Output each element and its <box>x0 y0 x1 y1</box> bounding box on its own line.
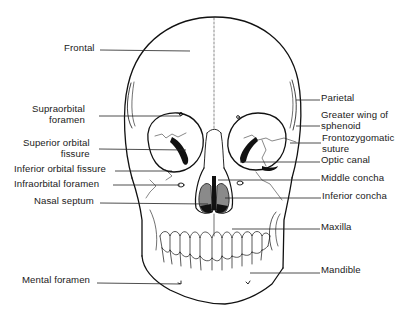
label-greater-wing-sphenoid: Greater wing ofsphenoid <box>321 110 388 131</box>
label-text: Greater wing of <box>321 110 388 121</box>
label-text: Middle concha <box>321 173 384 184</box>
label-nasal-septum: Nasal septum <box>34 196 94 207</box>
label-mandible: Mandible <box>321 265 361 276</box>
label-text: Supraorbital <box>32 104 85 115</box>
label-text: Inferior orbital fissure <box>14 164 106 175</box>
label-text: Infraorbital foramen <box>14 179 99 190</box>
label-inferior-orbital-fissure: Inferior orbital fissure <box>14 164 106 175</box>
label-frontozygomatic-suture: Frontozygomaticsuture <box>322 133 394 154</box>
label-text: Superior orbital <box>23 138 90 149</box>
label-text: Frontozygomatic <box>322 133 394 144</box>
leader-nasal-septum <box>100 203 208 204</box>
label-text: fissure <box>23 149 90 160</box>
label-text: Mandible <box>321 265 361 276</box>
label-text: Mental foramen <box>22 275 90 286</box>
label-text: suture <box>322 144 394 155</box>
label-mental-foramen: Mental foramen <box>22 275 90 286</box>
label-text: Parietal <box>321 93 354 104</box>
label-middle-concha: Middle concha <box>321 173 384 184</box>
label-text: Nasal septum <box>34 196 94 207</box>
label-optic-canal: Optic canal <box>321 155 370 166</box>
leader-mental-foramen <box>97 283 180 284</box>
label-text: Inferior concha <box>322 191 387 202</box>
label-supraorbital-foramen: Supraorbitalforamen <box>32 104 85 125</box>
label-frontal: Frontal <box>64 43 95 54</box>
label-text: Frontal <box>64 43 95 54</box>
label-superior-orbital-fissure: Superior orbitalfissure <box>23 138 90 159</box>
label-text: foramen <box>32 115 85 126</box>
leader-frontal <box>100 50 190 51</box>
label-parietal: Parietal <box>321 93 354 104</box>
leader-superior-orbital-fissure <box>99 149 186 150</box>
label-infraorbital-foramen: Infraorbital foramen <box>14 179 99 190</box>
label-text: Maxilla <box>321 222 352 233</box>
label-text: Optic canal <box>321 155 370 166</box>
label-inferior-concha: Inferior concha <box>322 191 387 202</box>
skull-outline <box>125 17 301 304</box>
label-text: sphenoid <box>321 121 388 132</box>
label-maxilla: Maxilla <box>321 222 352 233</box>
